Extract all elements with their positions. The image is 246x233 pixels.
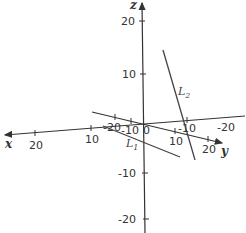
line-L2-label: L2 — [177, 85, 190, 100]
z-axis-label: z — [129, 0, 138, 12]
y-axis-label: y — [220, 144, 229, 158]
z-tick-neg10: -10 — [118, 167, 136, 180]
z-tick-10: 10 — [122, 68, 136, 81]
origin-label: 0 — [143, 124, 150, 137]
x-axis-label: x — [4, 137, 13, 151]
y-tick-10: 10 — [169, 135, 183, 148]
3d-diagram: z 20 10 -10 -20 x 20 10 -10 -20 y -20 -1… — [0, 0, 246, 233]
x-tick-neg20: -20 — [217, 121, 235, 134]
y-tick-neg10: -10 — [121, 124, 139, 137]
y-tick-20: 20 — [202, 143, 216, 156]
x-tick-10: 10 — [85, 133, 99, 146]
z-axis: z 20 10 -10 -20 — [118, 0, 149, 233]
x-tick-20: 20 — [29, 139, 43, 152]
z-tick-neg20: -20 — [118, 213, 136, 226]
z-tick-20: 20 — [121, 15, 135, 28]
